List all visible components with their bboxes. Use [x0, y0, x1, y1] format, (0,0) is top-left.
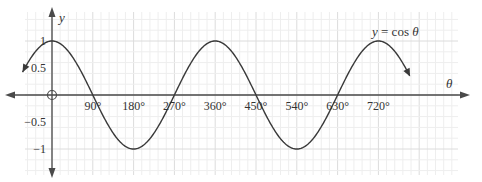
- y-axis-arrow-icon: [49, 7, 56, 17]
- y-tick-label: −0.5: [24, 115, 46, 129]
- function-label-theta: θ: [412, 24, 419, 39]
- y-axis-down-arrow-icon: [49, 168, 56, 178]
- function-label: y = cos θ: [370, 24, 419, 39]
- x-axis-arrow-icon: [460, 92, 470, 99]
- x-tick-label: 360°: [204, 99, 227, 113]
- x-tick-label: 540°: [285, 99, 308, 113]
- y-tick-label: 0.5: [31, 61, 46, 75]
- x-tick-label: 720°: [367, 99, 390, 113]
- y-axis-label: y: [57, 10, 65, 25]
- x-tick-label: 630°: [326, 99, 349, 113]
- x-tick-label: 270°: [163, 99, 186, 113]
- x-axis-left-arrow-icon: [5, 92, 15, 99]
- x-tick-label: 450°: [245, 99, 268, 113]
- x-axis-label: θ: [446, 76, 453, 91]
- y-tick-label: −1: [33, 142, 46, 156]
- x-tick-label: 180°: [122, 99, 145, 113]
- function-label-eq: = cos: [378, 24, 412, 39]
- cosine-chart: 90°180°270°360°450°540°630°720° 10.5−0.5…: [0, 0, 482, 182]
- y-tick-label: 1: [40, 34, 46, 48]
- x-tick-label: 90°: [84, 99, 101, 113]
